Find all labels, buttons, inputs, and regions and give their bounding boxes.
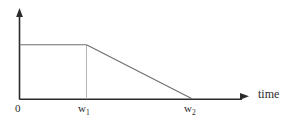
figure-container: 0 w1 w2 time xyxy=(0,0,291,124)
x-tick-label-w2: w2 xyxy=(184,103,196,117)
x-tick-label-w2-subscript: 2 xyxy=(192,108,196,117)
curve-decline-segment xyxy=(87,45,193,99)
x-axis-title: time xyxy=(258,88,279,100)
x-axis-arrowhead-icon xyxy=(240,93,249,100)
x-tick-label-origin: 0 xyxy=(15,103,21,114)
y-axis-arrowhead-icon xyxy=(16,8,23,17)
plot-canvas xyxy=(0,0,291,124)
x-tick-label-origin-text: 0 xyxy=(15,102,21,114)
x-tick-label-w1-base: w xyxy=(78,102,86,114)
x-tick-label-w1-subscript: 1 xyxy=(86,108,90,117)
x-tick-label-w1: w1 xyxy=(78,103,90,117)
x-tick-label-w2-base: w xyxy=(184,102,192,114)
